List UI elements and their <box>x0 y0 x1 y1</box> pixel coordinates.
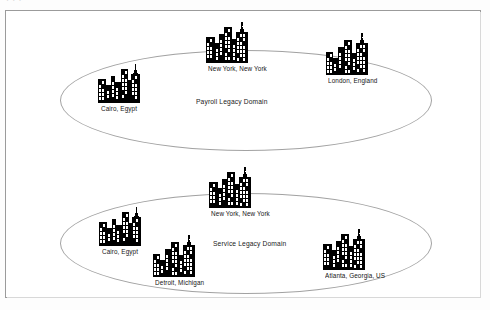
city-node[interactable]: Cairo, Egypt <box>97 55 141 113</box>
city-skyline-icon <box>205 15 249 63</box>
diagram-canvas: Payroll Legacy DomainCairo, EgyptNew Yor… <box>0 0 490 310</box>
city-node[interactable]: Atlanta, Georgia, US <box>322 222 366 280</box>
city-label: New York, New York <box>211 209 249 218</box>
city-label: Detroit, Michigan <box>155 278 193 287</box>
city-label: London, England <box>328 76 366 85</box>
city-node[interactable]: New York, New York <box>208 160 252 218</box>
city-skyline-icon <box>152 229 196 277</box>
city-skyline-icon <box>325 27 369 75</box>
city-node[interactable]: Detroit, Michigan <box>152 229 196 287</box>
city-skyline-icon <box>322 222 366 270</box>
city-skyline-icon <box>208 160 252 208</box>
city-skyline-icon <box>98 198 142 246</box>
city-skyline-icon <box>97 55 141 103</box>
diagram-page: · · · Payroll Legacy DomainCairo, EgyptN… <box>0 0 490 310</box>
domain-label-payroll: Payroll Legacy Domain <box>196 97 267 106</box>
city-node[interactable]: New York, New York <box>205 15 249 73</box>
diagram-frame: Payroll Legacy DomainCairo, EgyptNew Yor… <box>5 10 481 298</box>
domain-label-service: Service Legacy Domain <box>213 239 286 248</box>
city-label: Atlanta, Georgia, US <box>325 271 363 280</box>
city-label: New York, New York <box>208 64 246 73</box>
city-node[interactable]: Cairo, Egypt <box>98 198 142 256</box>
city-node[interactable]: London, England <box>325 27 369 85</box>
city-label: Cairo, Egypt <box>101 247 139 256</box>
city-label: Cairo, Egypt <box>100 104 138 113</box>
